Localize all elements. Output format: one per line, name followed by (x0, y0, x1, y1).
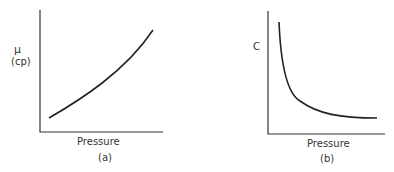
panel-a-ylabel-unit: (cp) (11, 57, 31, 67)
panel-a-caption: (a) (98, 153, 112, 163)
panel-a-xlabel: Pressure (77, 137, 120, 147)
panel-a-ylabel-symbol: μ (14, 45, 21, 55)
panel-b-curve (279, 22, 377, 118)
panel-a-axes (40, 10, 163, 132)
panel-b-xlabel: Pressure (307, 139, 350, 149)
panel-b-caption: (b) (320, 154, 334, 164)
panel-a-curve (49, 30, 153, 118)
panel-b-ylabel-symbol: C (253, 42, 260, 52)
